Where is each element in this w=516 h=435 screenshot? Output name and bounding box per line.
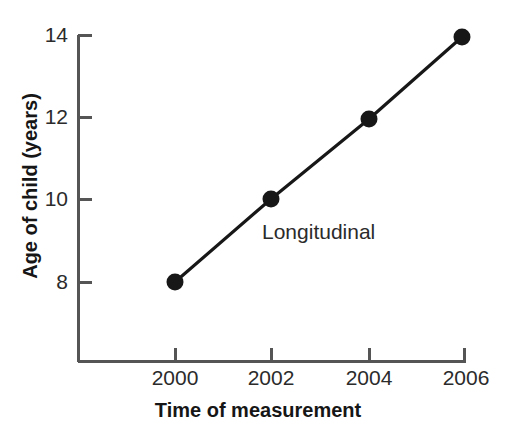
x-tick-label-2006: 2006 — [443, 366, 490, 390]
series-line-longitudinal — [175, 37, 462, 282]
data-point-2004 — [361, 111, 378, 128]
series-annotation-longitudinal: Longitudinal — [262, 220, 375, 244]
chart-figure: 8 10 12 14 2000 2002 2004 2006 Longitudi… — [0, 0, 516, 435]
x-tick-label-2000: 2000 — [152, 366, 199, 390]
x-axis-ticks — [176, 348, 465, 362]
y-tick-label-14: 14 — [30, 23, 68, 47]
data-point-2006 — [454, 29, 471, 46]
y-axis-title: Age of child (years) — [19, 93, 42, 279]
x-tick-label-2004: 2004 — [346, 366, 393, 390]
data-point-2000 — [167, 274, 184, 291]
data-point-2002 — [263, 191, 280, 208]
x-axis-title: Time of measurement — [0, 399, 516, 422]
x-tick-label-2002: 2002 — [248, 366, 295, 390]
y-axis-ticks — [78, 36, 92, 283]
